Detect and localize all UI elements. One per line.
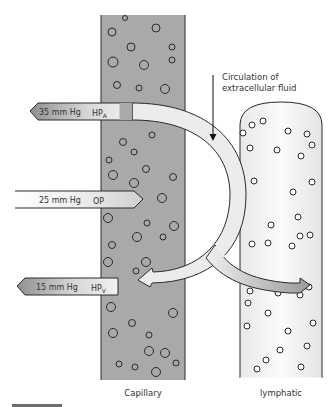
particle [277,347,283,353]
particle [304,131,310,137]
particle [285,128,291,134]
particle [265,310,271,316]
particle [244,323,250,329]
particle [304,343,310,349]
op-value-label: 25 mm Hg [39,196,81,205]
particle [290,189,296,195]
particle [297,233,303,239]
particle [251,178,257,184]
particle [265,240,271,246]
particle [260,118,266,124]
circulation-label-line1: Circulation of [222,72,279,82]
hpv-value-label: 15 mm Hg [36,283,78,292]
particle [298,153,304,159]
particle [285,328,291,334]
lymphatic-vessel [240,102,322,378]
particle [310,320,316,326]
particle [298,364,304,370]
particle [254,366,260,372]
hpa-value-label: 35 mm Hg [39,108,81,117]
particle [249,241,255,247]
particle [268,222,274,228]
op-symbol-label: OP [93,197,104,206]
particle [309,179,315,185]
particle [263,357,269,363]
particle [309,142,315,148]
lymphatic-label: lymphatic [260,388,302,398]
fluid-exchange-diagram: 35 mm Hg HPA 25 mm Hg OP 15 mm Hg HPV Ci… [0,0,335,407]
particle [307,232,313,238]
capillary-label: Capillary [124,388,161,398]
particle [247,288,253,294]
circulation-label-line2: extracellular fluid [222,83,296,93]
particle [245,300,251,306]
particle [289,243,295,249]
particle [247,145,253,151]
particle [274,147,280,153]
particle [249,122,255,128]
particle [240,130,246,136]
particle [295,214,301,220]
